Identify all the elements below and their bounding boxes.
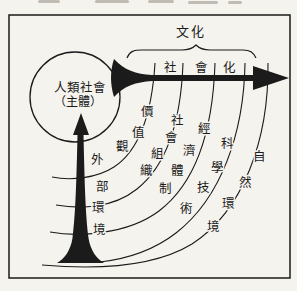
- socialization-char: 社: [164, 60, 177, 75]
- external-environment-char: 環: [92, 201, 105, 215]
- band-char: 織: [140, 164, 153, 178]
- socialization-label: 社 會 化: [164, 60, 236, 75]
- band-char: 值: [132, 125, 145, 140]
- socialization-char: 會: [195, 61, 208, 75]
- band-char: 價: [141, 105, 154, 119]
- culture-title: 文化: [176, 24, 206, 39]
- band-char: 學: [211, 161, 224, 175]
- band-char: 然: [239, 175, 252, 190]
- scan-artifact-smudges: [38, 0, 242, 4]
- band-char: 術: [180, 202, 193, 216]
- external-environment-char: 部: [96, 179, 109, 194]
- scanned-diagram: 文化 社 會 化 人類社會 （主體） 價 值 觀 社 會 組 織 經 濟 體 制…: [0, 0, 297, 291]
- external-environment-label: 外 部 環 境: [91, 153, 109, 237]
- band-label-values: 價 值 觀: [116, 105, 154, 154]
- external-environment-char: 外: [91, 153, 104, 167]
- band-char: 技: [197, 181, 210, 195]
- band-char: 觀: [116, 140, 129, 154]
- socialization-char: 化: [223, 61, 236, 75]
- band-char: 科: [221, 137, 234, 151]
- band-char: 社: [171, 113, 184, 128]
- band-char: 經: [198, 122, 211, 136]
- figure-frame: [9, 15, 290, 278]
- band-char: 境: [207, 219, 220, 234]
- band-char: 自: [253, 150, 266, 164]
- band-char: 會: [165, 131, 178, 145]
- band-char: 濟: [183, 143, 196, 158]
- subject-circle-label-line2: （主體）: [54, 95, 102, 109]
- band-char: 體: [171, 164, 184, 178]
- culture-brace-icon: [127, 45, 256, 58]
- diagram-canvas: 文化 社 會 化 人類社會 （主體） 價 值 觀 社 會 組 織 經 濟 體 制…: [0, 0, 297, 291]
- external-environment-char: 境: [93, 222, 106, 237]
- subject-circle-label-line1: 人類社會: [54, 80, 106, 95]
- band-char: 制: [159, 182, 172, 196]
- band-char: 組: [151, 147, 164, 161]
- band-char: 環: [222, 197, 235, 211]
